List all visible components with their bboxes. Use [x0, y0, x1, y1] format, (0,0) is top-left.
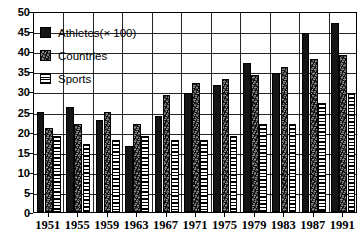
legend-label-athletes: Athletes(× 100) — [58, 27, 136, 39]
y-axis-tick-label: 15 — [4, 147, 30, 158]
y-axis-tick-label: 35 — [4, 67, 30, 78]
x-axis-tick-label: 1991 — [330, 218, 355, 232]
bar-countries — [133, 124, 141, 212]
x-axis-tickmark — [48, 213, 49, 217]
bar-athletes — [331, 23, 339, 212]
y-axis-tickmark — [28, 52, 33, 53]
bar-sports — [259, 124, 267, 212]
x-axis: 1951195519591963196719711975197919831987… — [33, 218, 357, 242]
y-axis-tick-label: 10 — [4, 167, 30, 178]
bar-sports — [289, 124, 297, 212]
gridline-vertical — [329, 13, 330, 212]
bar-countries — [74, 124, 82, 212]
x-axis-tick-label: 1983 — [271, 218, 296, 232]
bar-sports — [348, 93, 356, 212]
y-axis-tickmark — [28, 92, 33, 93]
bar-group — [184, 13, 208, 212]
gridline-vertical — [181, 13, 182, 212]
x-axis-tickmark — [224, 213, 225, 217]
x-axis-tickmark — [166, 213, 167, 217]
bar-chart: 05101520253035404550 1951195519591963196… — [0, 0, 361, 244]
legend-swatch-sports-icon — [40, 73, 51, 84]
bar-athletes — [213, 85, 221, 212]
x-axis-tick-label: 1959 — [94, 218, 119, 232]
x-axis-tickmark — [136, 213, 137, 217]
y-axis-tick-label: 20 — [4, 127, 30, 138]
bar-group — [302, 13, 326, 212]
y-axis-tickmark — [28, 193, 33, 194]
bar-countries — [281, 67, 289, 212]
x-axis-tick-label: 1955 — [65, 218, 90, 232]
bar-countries — [192, 83, 200, 212]
y-axis-tickmark — [28, 153, 33, 154]
y-axis-tick-label: 50 — [4, 7, 30, 18]
bar-countries — [310, 59, 318, 212]
legend-item-sports: Sports — [40, 68, 165, 89]
bar-group — [331, 13, 355, 212]
bar-athletes — [125, 146, 133, 212]
legend-item-countries: Countries — [40, 45, 165, 66]
y-axis-tick-label: 45 — [4, 27, 30, 38]
legend-label-sports: Sports — [58, 73, 91, 85]
y-axis-tickmark — [28, 213, 33, 214]
x-axis-tickmark — [254, 213, 255, 217]
legend-label-countries: Countries — [58, 50, 107, 62]
bar-athletes — [184, 93, 192, 212]
bar-athletes — [66, 107, 74, 212]
x-axis-tickmark — [195, 213, 196, 217]
x-axis-tick-label: 1951 — [35, 218, 60, 232]
legend-swatch-athletes-icon — [40, 27, 51, 38]
y-axis-tickmark — [28, 173, 33, 174]
bar-countries — [339, 55, 347, 212]
bar-countries — [104, 112, 112, 213]
gridline-vertical — [299, 13, 300, 212]
y-axis-tickmark — [28, 32, 33, 33]
bar-athletes — [302, 33, 310, 212]
bar-athletes — [37, 112, 45, 213]
y-axis-tick-label: 25 — [4, 107, 30, 118]
gridline-vertical — [211, 13, 212, 212]
y-axis-tick-label: 30 — [4, 87, 30, 98]
y-axis-tickmark — [28, 113, 33, 114]
bar-sports — [83, 144, 91, 212]
x-axis-tickmark — [107, 213, 108, 217]
chart-legend: Athletes(× 100) Countries Sports — [40, 22, 165, 91]
bar-countries — [222, 79, 230, 212]
bar-athletes — [272, 73, 280, 212]
y-axis: 05101520253035404550 — [0, 0, 30, 244]
bar-sports — [200, 140, 208, 212]
bar-athletes — [96, 120, 104, 212]
bar-sports — [112, 140, 120, 212]
bar-athletes — [155, 116, 163, 212]
bar-group — [272, 13, 296, 212]
x-axis-tick-label: 1967 — [153, 218, 178, 232]
bar-group — [243, 13, 267, 212]
bar-group — [213, 13, 237, 212]
y-axis-tick-label: 5 — [4, 187, 30, 198]
x-axis-tick-label: 1975 — [212, 218, 237, 232]
y-axis-tick-label: 40 — [4, 47, 30, 58]
bar-sports — [171, 140, 179, 212]
x-axis-tickmark — [342, 213, 343, 217]
y-axis-tickmark — [28, 133, 33, 134]
gridline-vertical — [270, 13, 271, 212]
bar-countries — [163, 95, 171, 212]
legend-swatch-countries-icon — [40, 50, 51, 61]
x-axis-tick-label: 1987 — [300, 218, 325, 232]
x-axis-tickmark — [77, 213, 78, 217]
y-axis-tickmark — [28, 72, 33, 73]
x-axis-tick-label: 1971 — [183, 218, 208, 232]
y-axis-tickmark — [28, 12, 33, 13]
bar-sports — [230, 136, 238, 212]
x-axis-tickmark — [313, 213, 314, 217]
y-axis-tick-label: 0 — [4, 208, 30, 219]
bar-sports — [141, 136, 149, 212]
gridline-vertical — [240, 13, 241, 212]
x-axis-tick-label: 1979 — [241, 218, 266, 232]
bar-countries — [45, 128, 53, 212]
legend-item-athletes: Athletes(× 100) — [40, 22, 165, 43]
x-axis-tick-label: 1963 — [124, 218, 149, 232]
x-axis-tickmark — [283, 213, 284, 217]
bar-countries — [251, 75, 259, 212]
bar-sports — [53, 136, 61, 212]
